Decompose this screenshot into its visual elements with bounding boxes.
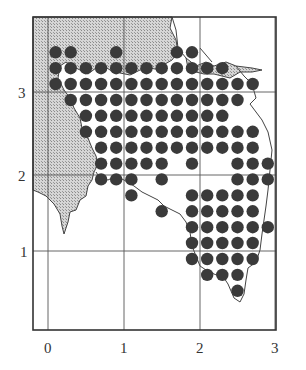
presence-dot — [216, 189, 228, 201]
presence-dot — [95, 142, 107, 154]
presence-dot — [140, 78, 152, 90]
y-tick-2: 2 — [18, 168, 26, 184]
presence-dot — [125, 110, 137, 122]
y-axis-ticks: 3 2 1 — [18, 85, 28, 260]
presence-dot — [201, 126, 213, 138]
presence-dot — [201, 253, 213, 265]
x-tick-3: 3 — [271, 340, 279, 356]
presence-dot — [125, 78, 137, 90]
presence-dot — [125, 157, 137, 169]
presence-dot — [201, 237, 213, 249]
presence-dot — [247, 78, 259, 90]
presence-dot — [231, 78, 243, 90]
presence-dot — [80, 126, 92, 138]
presence-dot — [171, 142, 183, 154]
presence-dot — [140, 62, 152, 74]
presence-dot — [156, 62, 168, 74]
presence-dot — [171, 110, 183, 122]
x-tick-0: 0 — [44, 340, 52, 356]
presence-dot — [95, 173, 107, 185]
presence-dot — [201, 205, 213, 217]
presence-dot — [216, 221, 228, 233]
presence-dot — [110, 78, 122, 90]
presence-dot — [95, 110, 107, 122]
presence-dot — [247, 253, 259, 265]
presence-dot — [231, 253, 243, 265]
presence-dot — [110, 157, 122, 169]
presence-dot — [231, 126, 243, 138]
presence-dot — [216, 142, 228, 154]
presence-dot — [201, 189, 213, 201]
presence-dot — [216, 62, 228, 74]
presence-dot — [186, 221, 198, 233]
presence-dot — [110, 94, 122, 106]
presence-dot — [231, 157, 243, 169]
presence-dot — [216, 94, 228, 106]
presence-dot — [171, 94, 183, 106]
presence-dot — [216, 253, 228, 265]
presence-dot — [262, 221, 274, 233]
presence-dot — [231, 94, 243, 106]
presence-dot — [201, 62, 213, 74]
presence-dot — [156, 173, 168, 185]
presence-dot — [125, 189, 137, 201]
presence-dot — [95, 126, 107, 138]
presence-dot — [171, 46, 183, 58]
presence-dot — [156, 126, 168, 138]
presence-dot — [231, 285, 243, 297]
presence-dot — [247, 173, 259, 185]
presence-dot — [171, 62, 183, 74]
presence-dot — [231, 142, 243, 154]
presence-dot — [65, 78, 77, 90]
presence-dot — [140, 94, 152, 106]
presence-dot — [95, 94, 107, 106]
presence-dot — [186, 189, 198, 201]
presence-dot — [140, 157, 152, 169]
presence-dot — [125, 142, 137, 154]
presence-dot — [247, 126, 259, 138]
presence-dot — [110, 173, 122, 185]
presence-dot — [262, 157, 274, 169]
presence-dot — [125, 126, 137, 138]
presence-dot — [110, 62, 122, 74]
presence-dot — [186, 205, 198, 217]
x-tick-1: 1 — [120, 340, 128, 356]
presence-dot — [186, 253, 198, 265]
presence-dot — [140, 142, 152, 154]
y-tick-1: 1 — [20, 244, 28, 260]
presence-dot — [171, 126, 183, 138]
presence-dot — [201, 110, 213, 122]
presence-dot — [201, 269, 213, 281]
presence-dot — [231, 269, 243, 281]
presence-dot — [80, 62, 92, 74]
presence-dot — [262, 173, 274, 185]
presence-dot — [216, 110, 228, 122]
presence-dot — [156, 78, 168, 90]
presence-dot — [110, 142, 122, 154]
presence-dot — [186, 46, 198, 58]
presence-dot — [186, 142, 198, 154]
presence-dot — [186, 126, 198, 138]
presence-dot — [247, 189, 259, 201]
presence-dot — [247, 221, 259, 233]
presence-dot — [216, 126, 228, 138]
presence-dot — [95, 78, 107, 90]
presence-dot — [231, 237, 243, 249]
presence-dot — [186, 237, 198, 249]
presence-dot — [156, 110, 168, 122]
presence-dot — [247, 142, 259, 154]
presence-dot — [49, 62, 61, 74]
presence-dot — [247, 237, 259, 249]
presence-dot — [49, 46, 61, 58]
presence-dot — [186, 78, 198, 90]
presence-dot — [125, 62, 137, 74]
presence-dot — [95, 62, 107, 74]
presence-dot — [65, 94, 77, 106]
presence-dot — [216, 205, 228, 217]
presence-dot — [201, 221, 213, 233]
presence-dot — [231, 221, 243, 233]
presence-dot — [156, 157, 168, 169]
presence-dot — [65, 46, 77, 58]
presence-dot — [110, 110, 122, 122]
presence-dot — [231, 173, 243, 185]
